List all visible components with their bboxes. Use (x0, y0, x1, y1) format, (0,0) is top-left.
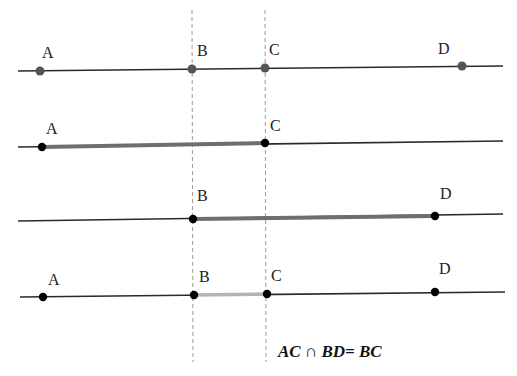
segment-AC (42, 143, 265, 147)
point-label-A: A (46, 120, 58, 137)
row-all-points: ABCD (18, 40, 503, 76)
point-A (38, 143, 46, 151)
point-D (431, 212, 439, 220)
point-C (261, 64, 270, 73)
point-label-C: C (271, 267, 282, 284)
intersection-formula: AC ∩ BD= BC (277, 342, 382, 361)
segment-BC (194, 294, 267, 295)
point-B (188, 65, 197, 74)
point-label-A: A (42, 44, 54, 61)
point-B (190, 291, 198, 299)
point-label-C: C (269, 41, 280, 58)
row-intersection-BC: ABCD (20, 260, 505, 301)
point-label-D: D (438, 40, 450, 57)
point-A (39, 293, 47, 301)
point-C (261, 139, 269, 147)
point-label-D: D (440, 185, 452, 202)
point-label-B: B (199, 268, 210, 285)
segment-BD (193, 216, 435, 219)
guide-through-B (192, 10, 193, 362)
number-line-rows: ABCDACBDABCD (18, 40, 505, 301)
row-segment-BD: BD (18, 185, 503, 223)
guide-through-C (265, 10, 266, 362)
point-D (431, 288, 439, 296)
point-B (189, 215, 197, 223)
row-segment-AC: AC (18, 117, 503, 151)
point-A (36, 67, 45, 76)
point-label-B: B (197, 187, 208, 204)
point-D (458, 62, 467, 71)
point-C (263, 290, 271, 298)
point-label-B: B (197, 42, 208, 59)
number-line (18, 66, 503, 71)
point-label-A: A (48, 271, 60, 288)
segment-intersection-diagram: ABCDACBDABCD AC ∩ BD= BC (0, 0, 517, 376)
point-label-D: D (439, 260, 451, 277)
point-label-C: C (270, 117, 281, 134)
vertical-guide-lines (192, 10, 266, 362)
